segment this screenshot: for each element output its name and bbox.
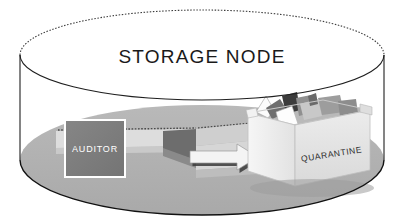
storage-node-diagram: QUARANTINE AUDITOR STORAGE NODE	[0, 0, 403, 224]
box-shadow	[250, 179, 374, 197]
diagram-canvas: QUARANTINE AUDITOR STORAGE NODE	[0, 0, 403, 224]
box-flap-left	[246, 108, 258, 118]
auditor-label: AUDITOR	[72, 144, 118, 154]
auditor-node[interactable]: AUDITOR	[65, 120, 125, 177]
page-title: STORAGE NODE	[118, 46, 285, 67]
